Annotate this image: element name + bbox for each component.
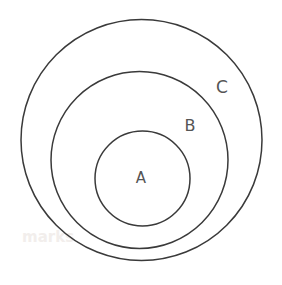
euler-diagram-canvas: marks C B A — [0, 0, 282, 285]
set-label-b: B — [185, 116, 196, 135]
watermark-text: marks — [22, 228, 74, 246]
set-label-c: C — [216, 77, 228, 97]
euler-diagram-svg: marks C B A — [0, 0, 282, 285]
set-label-a: A — [136, 169, 147, 187]
